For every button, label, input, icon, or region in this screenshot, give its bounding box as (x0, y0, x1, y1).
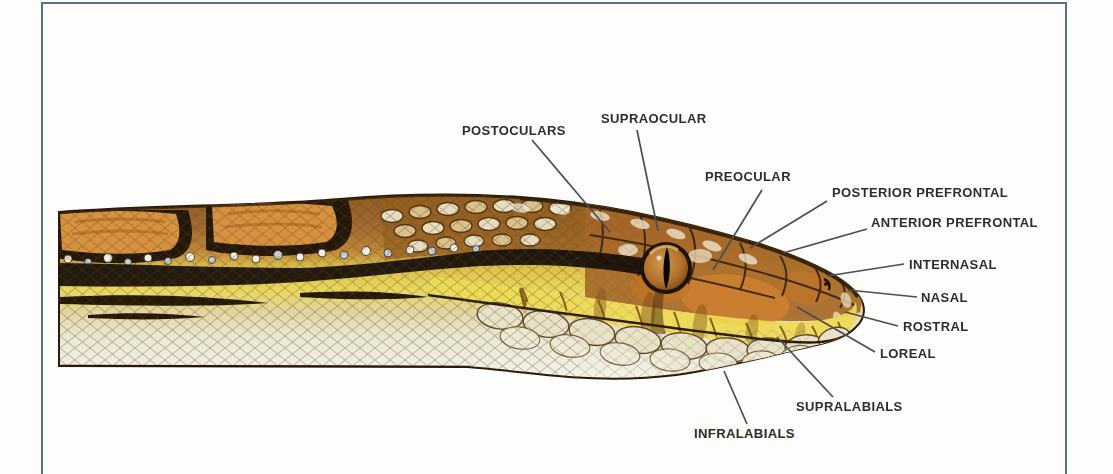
leader-line-anterior-prefrontal (783, 229, 867, 253)
leader-line-posterior-prefrontal (750, 201, 827, 248)
label-internasal: INTERNASAL (909, 258, 997, 271)
label-posterior-prefrontal: POSTERIOR PREFRONTAL (832, 186, 1008, 199)
label-rostral: ROSTRAL (903, 320, 969, 333)
snake-illustration (0, 0, 1113, 474)
leader-line-internasal (827, 264, 904, 276)
label-supralabials: SUPRALABIALS (796, 400, 903, 413)
label-postoculars: POSTOCULARS (462, 124, 566, 137)
snake-eye (640, 242, 692, 294)
label-nasal: NASAL (921, 291, 968, 304)
label-loreal: LOREAL (880, 347, 936, 360)
label-infralabials: INFRALABIALS (694, 427, 795, 440)
label-preocular: PREOCULAR (705, 170, 791, 183)
leader-line-infralabials (724, 371, 747, 424)
label-supraocular: SUPRAOCULAR (601, 112, 707, 125)
label-anterior-prefrontal: ANTERIOR PREFRONTAL (871, 216, 1038, 229)
figure-canvas: POSTOCULARS SUPRAOCULAR PREOCULAR POSTER… (0, 0, 1113, 474)
